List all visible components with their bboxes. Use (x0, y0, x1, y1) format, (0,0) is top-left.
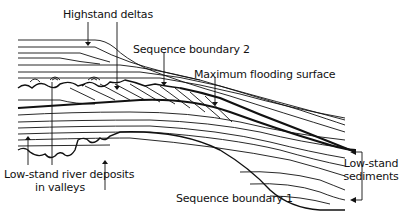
label-sequence-boundary-2: Sequence boundary 2 (133, 43, 250, 56)
label-lowstand-river-deposits: Low-stand river deposits in valleys (4, 168, 116, 194)
highstand-wavy-deposits (18, 80, 180, 88)
label-lowstand-sediments-line1: Low-stand (342, 157, 400, 170)
label-lowstand-river-line1: Low-stand river deposits (4, 168, 116, 181)
label-highstand-deltas: Highstand deltas (63, 8, 153, 21)
label-sequence-boundary-1: Sequence boundary 1 (176, 192, 293, 205)
label-maximum-flooding-surface: Maximum flooding surface (194, 68, 335, 81)
maximum-flooding-line (18, 100, 356, 150)
label-lowstand-sediments-line2: sediments (342, 170, 400, 183)
label-lowstand-sediments: Low-stand sediments (342, 157, 400, 183)
label-lowstand-river-line2: in valleys (4, 181, 116, 194)
stratigraphy-diagram: Highstand deltas Sequence boundary 2 Max… (0, 0, 402, 218)
